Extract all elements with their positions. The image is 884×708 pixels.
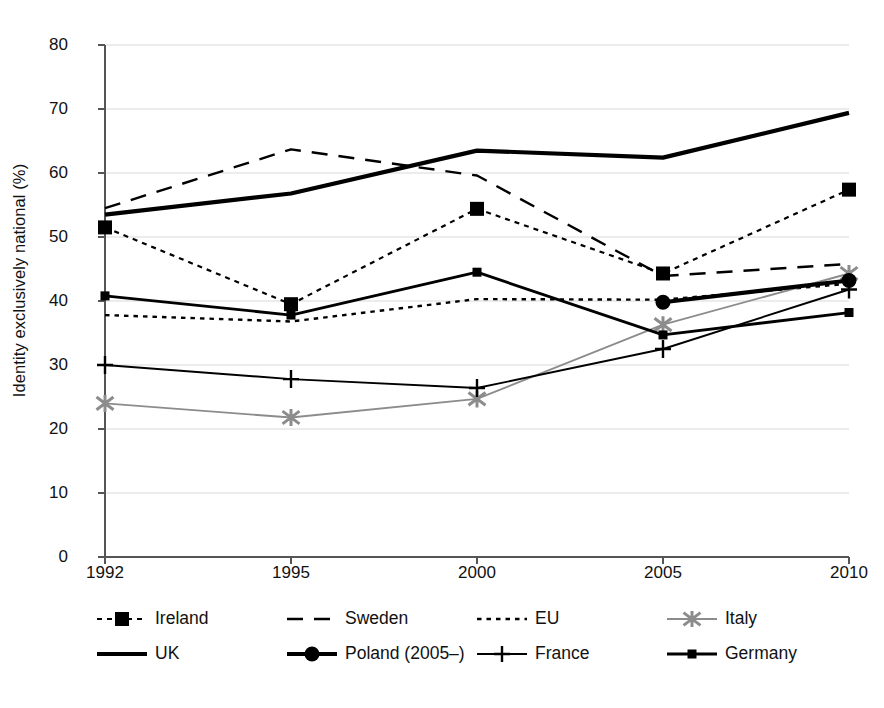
legend-key-icon [96,611,148,627]
legend-item-poland-2005[interactable]: Poland (2005–) [286,643,476,664]
data-point-marker [845,308,854,317]
legend-item-france[interactable]: France [476,643,666,664]
data-point-marker [473,268,482,277]
legend-key-icon [666,611,718,627]
series-italy [97,265,858,426]
data-point-marker [101,291,110,300]
data-point-marker [656,266,670,280]
legend-key-icon [96,646,148,662]
series-line [105,113,849,215]
legend-item-ireland[interactable]: Ireland [96,608,286,629]
legend-label: Sweden [345,608,408,629]
x-tick-label: 1995 [272,563,310,583]
legend-key-icon [666,646,718,662]
data-point-marker [284,297,298,311]
legend-label: EU [535,608,559,629]
chart-figure: Identity exclusively national (%) 807060… [0,0,884,708]
plot-area [0,0,884,708]
legend-key-icon [476,646,528,662]
data-point-marker [287,311,296,320]
legend-key-icon [476,611,528,627]
legend-item-sweden[interactable]: Sweden [286,608,476,629]
legend-item-germany[interactable]: Germany [666,643,856,664]
legend-label: Italy [725,608,757,629]
legend-label: Ireland [155,608,209,629]
data-point-marker [98,220,112,234]
data-point-marker [305,646,320,661]
x-tick-label: 2005 [644,563,682,583]
legend-label: UK [155,643,179,664]
data-point-marker [655,340,671,358]
x-tick-label: 2000 [458,563,496,583]
data-point-marker [659,330,668,339]
legend-item-uk[interactable]: UK [96,643,286,664]
legend-label: France [535,643,589,664]
legend-key-icon [286,646,338,662]
legend-item-eu[interactable]: EU [476,608,666,629]
series-uk [105,113,849,215]
data-point-marker [115,612,129,626]
chart-legend: IrelandSwedenEUItalyUKPoland (2005–)Fran… [96,608,856,664]
data-point-marker [470,202,484,216]
data-point-marker [283,370,299,388]
data-point-marker [494,646,510,662]
series-eu [105,284,849,322]
data-point-marker [688,649,697,658]
series-line [105,284,849,322]
x-tick-label: 1992 [86,563,124,583]
data-point-marker [656,295,671,310]
legend-label: Poland (2005–) [345,643,465,664]
data-point-marker [97,356,113,374]
legend-item-italy[interactable]: Italy [666,608,856,629]
legend-label: Germany [725,643,797,664]
legend-key-icon [286,611,338,627]
series-poland-2005 [656,273,857,310]
x-tick-label: 2010 [830,563,868,583]
data-point-marker [842,183,856,197]
